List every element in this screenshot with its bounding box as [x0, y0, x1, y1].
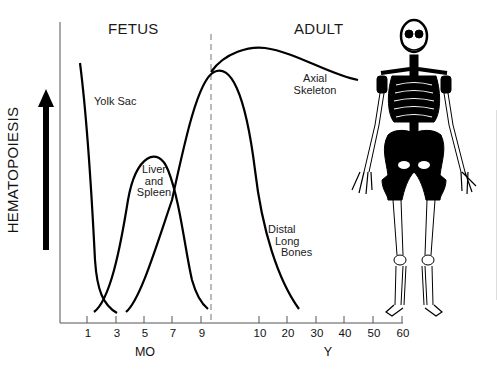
x-tick-5mo: 5: [142, 327, 148, 339]
x-tick-60y: 60: [397, 327, 410, 339]
label-yolk-sac: Yolk Sac: [94, 96, 136, 108]
phase-label-adult: ADULT: [294, 21, 344, 37]
x-tick-9mo: 9: [199, 327, 205, 339]
x-tick-3mo: 3: [114, 327, 120, 339]
chart-canvas: [0, 0, 497, 379]
y-axis-label: HEMATOPOIESIS: [4, 95, 21, 245]
hematopoiesis-arrow-icon: [38, 89, 54, 250]
x-tick-30y: 30: [311, 327, 324, 339]
phase-label-fetus: FETUS: [108, 21, 159, 37]
x-axis-ticks: [87, 316, 402, 323]
skeleton-illustration: [352, 20, 476, 316]
x-tick-20y: 20: [282, 327, 295, 339]
x-tick-7mo: 7: [170, 327, 176, 339]
label-axial-skeleton: Axial Skeleton: [285, 73, 345, 96]
x-tick-40y: 40: [339, 327, 352, 339]
x-tick-10y: 10: [254, 327, 267, 339]
x-tick-1mo: 1: [85, 327, 91, 339]
hematopoiesis-figure: FETUS ADULT HEMATOPOIESIS Yolk Sac Liver…: [0, 0, 497, 379]
x-unit-months: MO: [135, 345, 155, 359]
label-distal-long-bones: Distal Long Bones: [268, 224, 312, 259]
label-liver-spleen: Liver and Spleen: [132, 164, 176, 199]
x-unit-years: Y: [324, 345, 332, 359]
x-tick-50y: 50: [368, 327, 381, 339]
